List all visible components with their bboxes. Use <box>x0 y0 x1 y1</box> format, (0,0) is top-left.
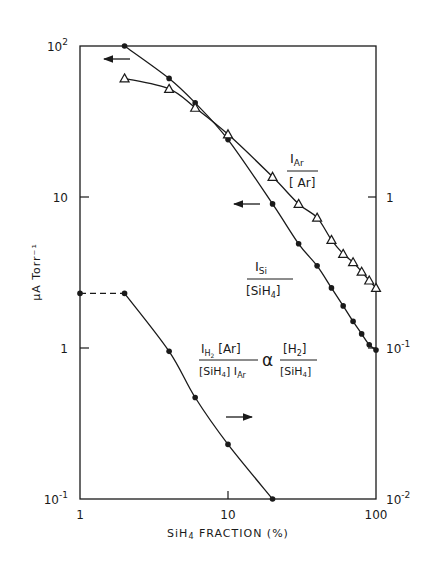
dot-marker <box>373 347 379 353</box>
y-right-tick-label: 10-2 <box>386 490 410 507</box>
svg-text:α: α <box>262 350 273 370</box>
dot-marker <box>122 291 128 297</box>
y-axis-label: μA Torr⁻¹ <box>30 243 43 301</box>
chart: 11010010210110-1110-110-2 IAr [ Ar] ISi … <box>0 0 439 562</box>
triangle-marker <box>120 74 129 82</box>
dot-marker <box>77 291 83 297</box>
y-right-tick-label: 1 <box>386 191 394 205</box>
dot-marker <box>270 496 276 502</box>
dot-marker <box>225 442 231 448</box>
tick-labels: 11010010210110-1110-110-2 <box>44 37 411 522</box>
triangle-marker <box>327 235 336 243</box>
svg-text:IH2 [Ar]: IH2 [Ar] <box>201 342 241 359</box>
series-line-0 <box>125 46 376 350</box>
svg-text:[H2]: [H2] <box>283 342 307 358</box>
y-left-tick-label: 102 <box>47 37 68 54</box>
x-axis-label: SiH4 FRACTION (%) <box>167 527 289 541</box>
dot-marker <box>359 331 365 337</box>
x-tick-label: 10 <box>220 508 235 522</box>
y-left-tick-label: 10 <box>53 191 68 205</box>
dot-marker <box>122 43 128 49</box>
dot-marker <box>350 319 356 325</box>
svg-text:IAr: IAr <box>290 151 304 168</box>
dot-marker <box>166 349 172 355</box>
svg-text:[SiH4]: [SiH4] <box>280 365 311 379</box>
dot-marker <box>270 201 276 207</box>
series-lines <box>80 46 376 499</box>
dot-marker <box>366 342 372 348</box>
series-markers <box>77 43 380 502</box>
svg-text:[ Ar]: [ Ar] <box>289 176 315 190</box>
dot-marker <box>314 263 320 269</box>
dot-marker <box>166 76 172 82</box>
svg-text:[SiH4] IAr: [SiH4] IAr <box>199 365 247 380</box>
y-left-tick-label: 1 <box>60 342 68 356</box>
x-tick-label: 100 <box>365 508 388 522</box>
y-right-tick-label: 10-1 <box>386 339 410 356</box>
label-iar-over-ar: IAr [ Ar] <box>287 151 318 190</box>
series-line-2 <box>125 293 273 499</box>
label-h2-ratio: IH2 [Ar] [SiH4] IAr α [H2] [SiH4] <box>199 342 317 380</box>
dot-marker <box>192 395 198 401</box>
dot-marker <box>296 241 302 247</box>
x-tick-label: 1 <box>76 508 84 522</box>
y-left-tick-label: 10-1 <box>44 490 68 507</box>
svg-text:[SiH4]: [SiH4] <box>246 284 280 300</box>
dot-marker <box>329 285 335 291</box>
plot-frame <box>80 46 376 499</box>
series-line-1 <box>125 78 376 287</box>
dot-marker <box>340 303 346 309</box>
svg-text:ISi: ISi <box>255 259 267 276</box>
label-isi-over-sih4: ISi [SiH4] <box>246 259 293 300</box>
